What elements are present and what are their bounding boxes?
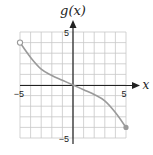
axes — [20, 20, 140, 144]
x-axis-arrow-icon — [132, 82, 140, 89]
y-axis-label: g(x) — [60, 3, 86, 18]
open-endpoint — [17, 40, 22, 45]
y-axis-arrow-icon — [70, 20, 77, 28]
x-axis-label: x — [143, 78, 150, 92]
x-tick-max: 5 — [121, 89, 126, 99]
graph-of-g: g(x) x −5 5 5 −5 — [0, 0, 153, 155]
x-tick-min: −5 — [14, 89, 24, 99]
y-tick-max: 5 — [64, 28, 69, 38]
closed-endpoint — [123, 125, 128, 130]
y-tick-min: −5 — [59, 134, 69, 144]
